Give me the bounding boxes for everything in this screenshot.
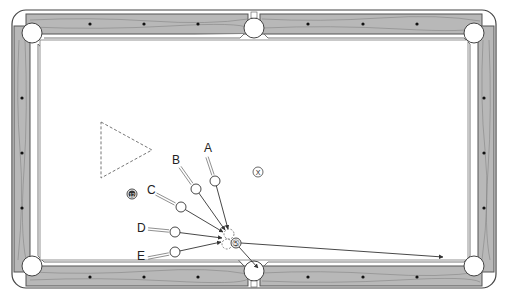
diamond-top [361,22,364,25]
diamond-top [415,22,418,25]
cue-position-label-C: C [147,183,156,197]
diamond-right [482,96,485,99]
diamond-left [20,96,23,99]
rail-bottom-left [26,266,248,286]
rail-bottom-right [260,266,482,286]
pocket-top-right [464,23,484,43]
diamond-right [482,206,485,209]
x-marker-label: X [256,169,261,176]
rail-right [478,26,494,272]
rail-top-right [260,14,482,34]
rail-top-left [26,14,248,34]
cue-ball-C [176,202,186,212]
diamond-top [142,22,145,25]
cue-position-label-A: A [204,141,212,155]
diamond-left [20,151,23,154]
diamond-left [20,206,23,209]
cue-ball-D [170,227,180,237]
cue-position-label-D: D [137,221,146,235]
cue-ball-E [170,247,180,257]
diamond-bottom [196,275,199,278]
diamond-bottom [415,275,418,278]
cue-position-label-E: E [137,249,145,263]
cue-ball-A [210,176,220,186]
pocket-bottom-right [464,256,484,276]
pool-table-diagram: ABCDE 512X [0,0,505,298]
cue-ball-B [191,184,201,194]
diamond-top [88,22,91,25]
ball-12-number: 12 [129,192,135,198]
diamond-right [482,151,485,154]
diamond-bottom [88,275,91,278]
pocket-bottom-left [22,256,42,276]
diamond-top [196,22,199,25]
pocket-top-left [22,23,42,43]
object-ball-number: 5 [234,240,238,247]
rail-left [14,26,30,272]
diamond-top [306,22,309,25]
cloth [40,40,468,260]
diamond-bottom [306,275,309,278]
diamond-bottom [142,275,145,278]
diamond-bottom [361,275,364,278]
pocket-top-middle [244,18,264,38]
cue-position-label-B: B [172,153,180,167]
